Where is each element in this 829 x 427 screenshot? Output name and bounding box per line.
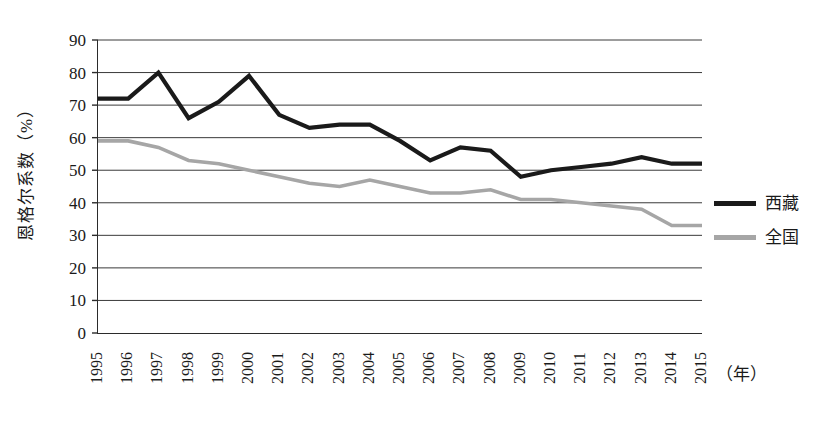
chart-figure: 恩格尔系数（%） 0102030405060708090 19951996199… <box>0 0 829 427</box>
x-axis-tick-label: 2005 <box>389 336 409 402</box>
x-axis-tick-label-text: 2002 <box>300 352 316 384</box>
x-axis-tick-label-text: 2003 <box>331 352 347 384</box>
x-axis-tick-label: 2014 <box>661 336 681 402</box>
x-axis-tick-label-text: 1998 <box>180 352 196 384</box>
y-axis-tick-label: 20 <box>69 259 86 276</box>
x-axis-tick-label-text: 1997 <box>149 352 165 384</box>
x-axis-tick-label: 2012 <box>600 336 620 402</box>
y-axis-tick-label: 50 <box>69 162 86 179</box>
x-axis-tick-label-text: 2007 <box>451 352 467 384</box>
legend-item-全国[interactable]: 全国 <box>714 220 824 254</box>
x-axis-tick-label: 2004 <box>359 336 379 402</box>
legend-item-label: 全国 <box>765 229 799 246</box>
legend-item-label: 西藏 <box>765 195 799 212</box>
x-axis-tick-label: 1999 <box>208 336 228 402</box>
x-axis-tick-label-text: 2000 <box>240 352 256 384</box>
x-axis-tick-label-text: 2013 <box>633 352 649 384</box>
x-axis-unit-label: （年） <box>716 360 767 385</box>
x-axis-tick-label: 1998 <box>178 336 198 402</box>
y-axis-title-text: 恩格尔系数（%） <box>13 99 38 240</box>
x-axis-tick-label-text: 1995 <box>89 352 105 384</box>
x-axis-tick-label-text: 2006 <box>421 352 437 384</box>
x-axis-tick-label-text: 2001 <box>270 352 286 384</box>
x-axis-tick-label-text: 2015 <box>693 352 709 384</box>
x-axis-tick-label: 2003 <box>329 336 349 402</box>
x-axis-tick-label-text: 2004 <box>361 352 377 384</box>
x-axis-tick-label: 2000 <box>238 336 258 402</box>
x-axis-tick-label: 2008 <box>480 336 500 402</box>
x-axis-tick-label: 2006 <box>419 336 439 402</box>
chart-legend: 西藏全国 <box>714 186 824 254</box>
x-axis-tick-label-text: 2008 <box>482 352 498 384</box>
plot-svg <box>98 40 702 333</box>
x-axis-tick-label-text: 2009 <box>512 352 528 384</box>
x-axis-tick-labels: 1995199619971998199920002001200220032004… <box>97 336 701 406</box>
x-axis-tick-label: 2009 <box>510 336 530 402</box>
legend-item-西藏[interactable]: 西藏 <box>714 186 824 220</box>
x-axis-tick-label: 1996 <box>117 336 137 402</box>
x-axis-tick-label-text: 2012 <box>602 352 618 384</box>
x-axis-tick-label: 2013 <box>631 336 651 402</box>
x-axis-tick-label-text: 2005 <box>391 352 407 384</box>
y-axis-tick-label: 30 <box>69 227 86 244</box>
y-axis-title: 恩格尔系数（%） <box>8 0 42 340</box>
x-axis-tick-label-text: 2011 <box>572 352 588 383</box>
x-axis-tick-label-text: 2014 <box>663 352 679 384</box>
y-axis-tick-label: 80 <box>69 64 86 81</box>
x-axis-tick-label: 2015 <box>691 336 711 402</box>
y-axis-tick-label: 10 <box>69 292 86 309</box>
x-axis-tick-label-text: 2010 <box>542 352 558 384</box>
y-axis-tick-labels: 0102030405060708090 <box>44 28 92 334</box>
y-axis-tick-label: 70 <box>69 97 86 114</box>
legend-line-swatch <box>714 201 756 206</box>
y-axis-tick-label: 90 <box>69 32 86 49</box>
series-line-全国 <box>98 141 702 226</box>
x-axis-tick-label: 2002 <box>298 336 318 402</box>
y-axis-tick-label: 0 <box>78 325 87 342</box>
plot-area <box>97 40 702 334</box>
legend-line-swatch <box>714 235 756 240</box>
x-axis-tick-label: 2010 <box>540 336 560 402</box>
y-axis-tick-label: 40 <box>69 194 86 211</box>
x-axis-tick-label-text: 1999 <box>210 352 226 384</box>
x-axis-tick-label-text: 1996 <box>119 352 135 384</box>
x-axis-tick-label: 2001 <box>268 336 288 402</box>
x-axis-tick-label: 1995 <box>87 336 107 402</box>
y-axis-tick-label: 60 <box>69 129 86 146</box>
x-axis-tick-label: 1997 <box>147 336 167 402</box>
x-axis-tick-label: 2011 <box>570 336 590 402</box>
x-axis-tick-label: 2007 <box>449 336 469 402</box>
